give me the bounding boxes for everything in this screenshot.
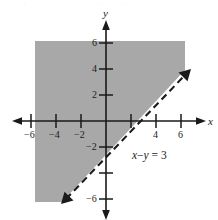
y-tick-label--2: −2: [86, 142, 97, 152]
x-tick-label--4: −4: [49, 130, 60, 140]
equation-annotation: x−y = 3: [132, 150, 167, 162]
y-tick-label--6: −6: [86, 194, 97, 204]
y-tick-label-4: 4: [92, 64, 97, 74]
y-tick-label-2: 2: [92, 90, 97, 100]
inequality-graph-figure: · · ·: [0, 0, 218, 220]
y-tick-label-6: 6: [92, 38, 97, 48]
coordinate-plane: [0, 0, 218, 220]
y-axis-label: y: [103, 8, 108, 19]
x-tick-label--6: −6: [24, 130, 35, 140]
x-tick-label-6: 6: [178, 130, 183, 140]
x-tick-label--2: −2: [74, 130, 85, 140]
equation-rhs: = 3: [152, 149, 167, 161]
x-tick-label-4: 4: [153, 130, 158, 140]
x-axis-label: x: [208, 116, 213, 127]
equation-var-y: y: [144, 149, 149, 161]
